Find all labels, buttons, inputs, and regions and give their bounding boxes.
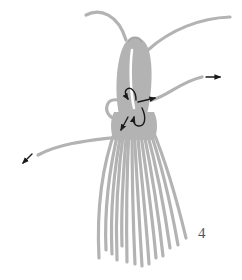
working-cord-left — [38, 137, 118, 155]
step-number-label: 4 — [198, 226, 206, 241]
arrow-lower-left — [23, 154, 32, 163]
top-left-cord-end — [86, 12, 126, 40]
top-right-cord-end — [148, 17, 230, 50]
working-cord-right — [152, 77, 202, 100]
folded-loop-head — [117, 38, 152, 119]
tassel-strands — [98, 128, 186, 266]
